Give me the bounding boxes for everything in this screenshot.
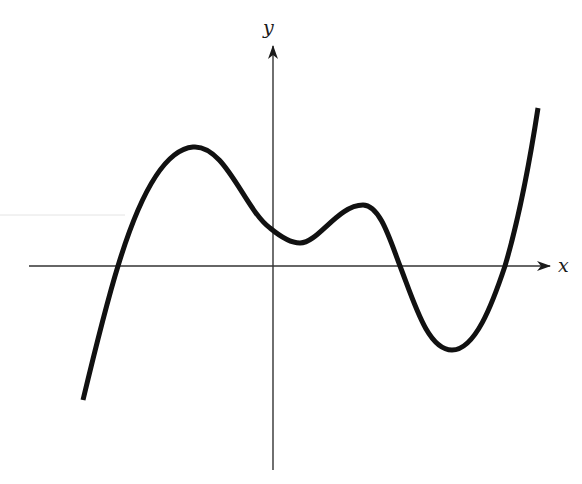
graph-canvas <box>0 0 582 484</box>
y-axis-label: y <box>263 18 274 37</box>
function-curve <box>83 108 538 400</box>
x-axis-label: x <box>558 256 569 275</box>
function-graph: y x <box>0 0 582 484</box>
